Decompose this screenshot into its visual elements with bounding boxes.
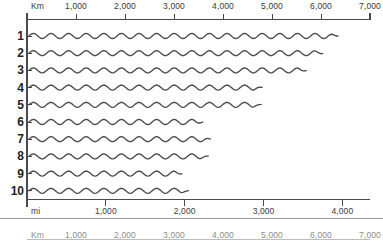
- scale-comparison-figure: 1,0002,0003,0004,0005,0006,0007,000Km1,0…: [0, 0, 383, 246]
- wavy-bar-3: [29, 68, 306, 73]
- row-label-5: 5: [17, 99, 24, 111]
- wavy-bar-9: [29, 171, 182, 176]
- row-label-1: 1: [17, 30, 24, 42]
- clipped-kilometers-tick-label-7000: 7,000: [359, 231, 381, 240]
- clipped-kilometers-tick-label-5000: 5,000: [261, 231, 283, 240]
- row-label-4: 4: [17, 82, 24, 94]
- row-label-3: 3: [17, 64, 24, 76]
- clipped-kilometers-tick-label-3000: 3,000: [163, 231, 185, 240]
- wavy-bar-5: [29, 102, 261, 107]
- kilometers-tick-label-6000: 6,000: [310, 2, 332, 11]
- kilometers-tick-label-4000: 4,000: [212, 2, 234, 11]
- wavy-bar-1: [29, 34, 338, 39]
- wavy-bar-7: [29, 137, 211, 142]
- wavy-bars-group: [29, 34, 338, 194]
- clipped-kilometers-tick-label-1000: 1,000: [65, 231, 87, 240]
- miles-unit-label: mi: [31, 207, 40, 216]
- miles-tick-label-2000: 2,000: [174, 207, 196, 216]
- wavy-bar-6: [29, 120, 203, 125]
- clipped-kilometers-tick-label-2000: 2,000: [114, 231, 136, 240]
- row-label-6: 6: [17, 116, 24, 128]
- row-label-8: 8: [17, 150, 24, 162]
- row-label-9: 9: [17, 168, 24, 180]
- miles-tick-label-3000: 3,000: [253, 207, 275, 216]
- clipped-kilometers-unit-label: Km: [31, 231, 44, 240]
- miles-tick-label-1000: 1,000: [95, 207, 117, 216]
- wavy-bar-10: [29, 188, 189, 193]
- kilometers-tick-label-7000: 7,000: [359, 2, 381, 11]
- kilometers-tick-label-3000: 3,000: [163, 2, 185, 11]
- kilometers-tick-label-2000: 2,000: [114, 2, 136, 11]
- row-label-10: 10: [11, 185, 24, 197]
- miles-tick-label-4000: 4,000: [332, 207, 354, 216]
- wavy-bar-8: [29, 154, 208, 159]
- kilometers-unit-label: Km: [31, 2, 44, 11]
- wavy-bar-4: [29, 85, 262, 90]
- clipped-kilometers-tick-label-4000: 4,000: [212, 231, 234, 240]
- clipped-kilometers-tick-label-6000: 6,000: [310, 231, 332, 240]
- kilometers-tick-label-1000: 1,000: [65, 2, 87, 11]
- wavy-bar-2: [29, 51, 323, 56]
- row-label-2: 2: [17, 47, 24, 59]
- row-label-7: 7: [17, 133, 24, 145]
- kilometers-tick-label-5000: 5,000: [261, 2, 283, 11]
